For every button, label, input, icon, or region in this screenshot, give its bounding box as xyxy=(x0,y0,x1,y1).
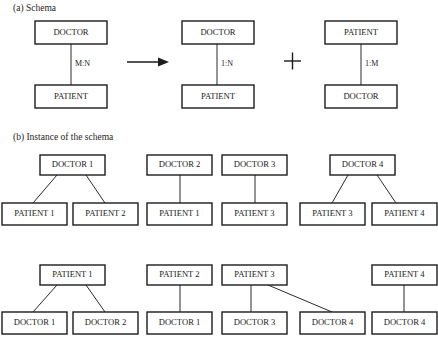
schema-middle-cardinality: 1:N xyxy=(221,59,233,68)
plus-icon xyxy=(284,53,301,70)
schema-left-top-label: DOCTOR xyxy=(53,27,88,37)
instance-row1: DOCTOR 1 DOCTOR 2 DOCTOR 3 DOCTOR 4 PATI… xyxy=(2,155,437,225)
row2-child-label-5: DOCTOR 4 xyxy=(384,317,426,327)
row2-parent-label-0: PATIENT 1 xyxy=(52,269,92,279)
schema-middle-bottom-label: PATIENT xyxy=(201,91,236,101)
arrow-right-icon xyxy=(127,58,169,67)
row1-parent-label-0: DOCTOR 1 xyxy=(52,159,94,169)
figure-canvas: (a) Schema DOCTOR PATIENT M:N DOCTOR PAT… xyxy=(0,0,438,351)
row2-parent-label-2: PATIENT 3 xyxy=(234,269,274,279)
row2-parent-label-1: PATIENT 2 xyxy=(159,269,199,279)
schema-group-right: PATIENT DOCTOR 1:M xyxy=(325,21,397,108)
schema-left-cardinality: M:N xyxy=(75,59,90,68)
row2-edge-p3-d4 xyxy=(268,285,332,312)
row2-child-label-2: DOCTOR 1 xyxy=(159,317,201,327)
row1-edge-d4-p3 xyxy=(332,175,348,203)
schema-right-bottom-label: DOCTOR xyxy=(343,91,378,101)
schema-right-top-label: PATIENT xyxy=(344,27,379,37)
row2-child-label-3: DOCTOR 3 xyxy=(234,317,276,327)
row1-child-label-3: PATIENT 3 xyxy=(234,208,274,218)
row2-child-label-1: DOCTOR 2 xyxy=(85,317,127,327)
row2-edge-p1-d1 xyxy=(33,285,57,312)
row1-child-label-0: PATIENT 1 xyxy=(14,208,54,218)
row2-edge-p1-d2 xyxy=(86,285,105,312)
row1-edge-d4-p4 xyxy=(377,175,396,203)
caption-section-a: (a) Schema xyxy=(13,3,57,14)
row2-child-label-0: DOCTOR 1 xyxy=(14,317,56,327)
row1-child-label-1: PATIENT 2 xyxy=(85,208,125,218)
schema-group-left: DOCTOR PATIENT M:N xyxy=(35,21,107,108)
schema-right-cardinality: 1:M xyxy=(365,59,378,68)
row1-child-label-2: PATIENT 1 xyxy=(159,208,199,218)
row1-child-label-5: PATIENT 4 xyxy=(384,208,425,218)
caption-section-b: (b) Instance of the schema xyxy=(13,132,114,143)
row1-child-label-4: PATIENT 3 xyxy=(312,208,352,218)
row1-edge-d1-p2 xyxy=(86,175,105,203)
row2-child-label-4: DOCTOR 4 xyxy=(312,317,354,327)
schema-middle-top-label: DOCTOR xyxy=(200,27,235,37)
instance-row2: PATIENT 1 PATIENT 2 PATIENT 3 PATIENT 4 … xyxy=(2,265,437,334)
row1-parent-label-2: DOCTOR 3 xyxy=(234,159,276,169)
row2-parent-label-3: PATIENT 4 xyxy=(384,269,425,279)
row1-edge-d1-p1 xyxy=(33,175,57,203)
schema-group-middle: DOCTOR PATIENT 1:N xyxy=(182,21,254,108)
row1-parent-label-1: DOCTOR 2 xyxy=(159,159,201,169)
schema-left-bottom-label: PATIENT xyxy=(54,91,89,101)
row1-parent-label-3: DOCTOR 4 xyxy=(342,159,384,169)
